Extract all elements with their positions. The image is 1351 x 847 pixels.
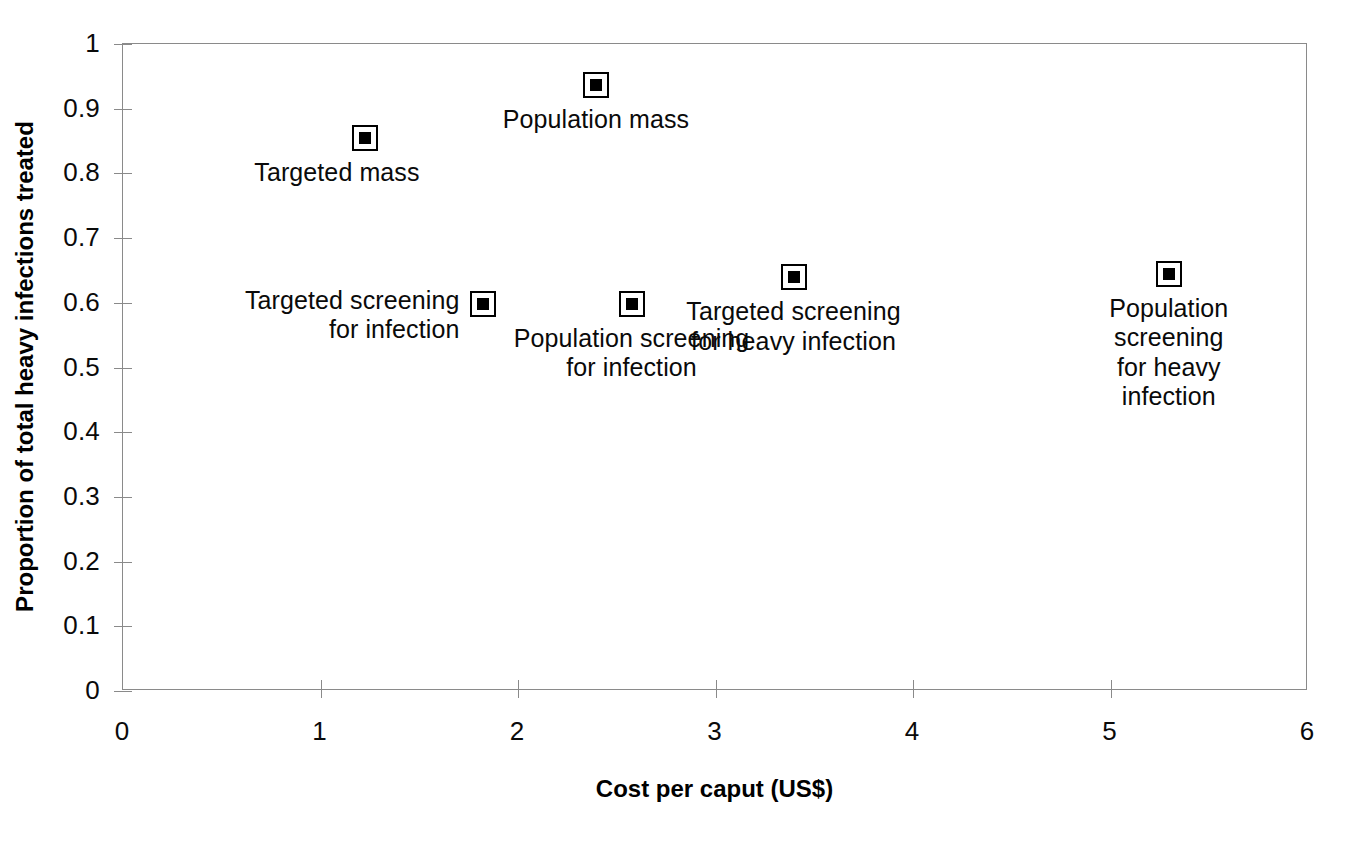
y-axis-tick: [114, 626, 132, 627]
x-axis-tick: [1111, 680, 1112, 698]
y-axis-tick: [114, 44, 132, 45]
x-axis-tick: [321, 680, 322, 698]
y-axis-tick: [114, 691, 132, 692]
y-axis-tick-label: 0.3: [63, 480, 100, 511]
x-axis-tick-label: 1: [312, 716, 327, 747]
scatter-chart-figure: Proportion of total heavy infections tre…: [0, 0, 1351, 847]
x-axis-tick-label: 0: [115, 716, 130, 747]
x-axis-tick: [913, 680, 914, 698]
x-axis-title: Cost per caput (US$): [122, 775, 1307, 803]
y-axis-tick: [114, 238, 132, 239]
data-point-marker-center: [626, 298, 638, 310]
data-point-marker-center: [477, 298, 489, 310]
y-axis-tick-label: 0.6: [63, 286, 100, 317]
data-point-label: Population screening for heavy infection: [1078, 294, 1260, 412]
y-axis-tick: [114, 562, 132, 563]
data-point-marker-center: [359, 132, 371, 144]
data-point-marker-center: [1163, 268, 1175, 280]
data-point-marker-center: [590, 79, 602, 91]
y-axis-title: Proportion of total heavy infections tre…: [8, 43, 42, 690]
data-point-marker[interactable]: [781, 264, 807, 290]
y-axis-tick: [114, 432, 132, 433]
x-axis-tick-label: 6: [1300, 716, 1315, 747]
data-point-marker[interactable]: [352, 125, 378, 151]
x-axis-tick-label: 2: [510, 716, 525, 747]
x-axis-tick-label: 3: [707, 716, 722, 747]
x-axis-tick-label: 4: [905, 716, 920, 747]
y-axis-tick-label: 0.7: [63, 222, 100, 253]
y-axis-tick-label: 0.1: [63, 610, 100, 641]
data-point-label: Population mass: [503, 105, 689, 135]
y-axis-title-container: Proportion of total heavy infections tre…: [8, 43, 42, 690]
data-point-label: Targeted screening for heavy infection: [686, 297, 900, 356]
data-point-marker-center: [788, 271, 800, 283]
data-point-marker[interactable]: [470, 291, 496, 317]
y-axis-tick: [114, 368, 132, 369]
data-point-label: Targeted screening for infection: [245, 286, 459, 345]
y-axis-tick-label: 0.2: [63, 545, 100, 576]
y-axis-tick: [114, 109, 132, 110]
data-point-label: Targeted mass: [254, 158, 419, 188]
x-axis-tick-label: 5: [1102, 716, 1117, 747]
x-axis-tick: [716, 680, 717, 698]
y-axis-tick-label: 0: [85, 675, 100, 706]
data-point-marker[interactable]: [619, 291, 645, 317]
y-axis-tick-label: 1: [85, 28, 100, 59]
data-point-marker[interactable]: [1156, 261, 1182, 287]
y-axis-tick-label: 0.9: [63, 92, 100, 123]
y-axis-tick: [114, 497, 132, 498]
x-axis-tick: [518, 680, 519, 698]
data-point-marker[interactable]: [583, 72, 609, 98]
y-axis-tick-label: 0.8: [63, 157, 100, 188]
y-axis-tick-label: 0.4: [63, 416, 100, 447]
y-axis-tick: [114, 303, 132, 304]
y-axis-tick-label: 0.5: [63, 351, 100, 382]
y-axis-tick: [114, 173, 132, 174]
